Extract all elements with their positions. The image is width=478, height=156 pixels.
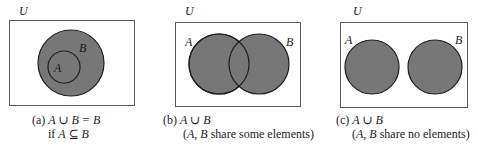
panel-c: U A B <box>341 4 468 108</box>
caption-c-line2: (A, B share no elements) <box>336 127 470 141</box>
caption-a-condition-prefix: if <box>48 127 58 141</box>
caption-b-expression: A ∪ B <box>180 113 211 127</box>
caption-b-sets: A, B <box>187 127 208 141</box>
panel-b: U A B <box>176 4 301 107</box>
caption-b: (b) A ∪ B (A, B share some elements) <box>163 113 314 141</box>
set-b-label-a: B <box>79 41 87 55</box>
caption-c-description: share no elements) <box>377 127 470 141</box>
caption-a-equation: A ∪ B = B <box>48 113 100 127</box>
universe-label-a: U <box>19 4 29 18</box>
caption-a-condition: A ⊆ B <box>58 127 89 141</box>
set-b-circle-c <box>408 40 462 94</box>
set-b-label-c: B <box>455 33 463 47</box>
set-a-label-a: A <box>53 61 62 75</box>
universe-label-b: U <box>185 4 195 18</box>
caption-c-sets: A, B <box>356 127 377 141</box>
caption-a-line2: if A ⊆ B <box>32 127 100 141</box>
caption-b-description: share some elements) <box>208 127 314 141</box>
panel-a: U B A <box>10 4 135 106</box>
set-a-label-c: A <box>344 33 353 47</box>
caption-b-line1: (b) A ∪ B <box>163 113 314 127</box>
caption-a-prefix: (a) <box>32 113 48 127</box>
caption-c: (c) A ∪ B (A, B share no elements) <box>336 113 470 141</box>
caption-b-prefix: (b) <box>163 113 180 127</box>
set-a-label-b: A <box>184 35 193 49</box>
set-a-circle-c <box>345 40 399 94</box>
caption-b-line2: (A, B share some elements) <box>163 127 314 141</box>
caption-a: (a) A ∪ B = B if A ⊆ B <box>32 113 100 141</box>
set-b-circle-b <box>229 34 289 94</box>
caption-c-line1: (c) A ∪ B <box>336 113 470 127</box>
set-b-label-b: B <box>286 35 294 49</box>
caption-c-expression: A ∪ B <box>352 113 383 127</box>
caption-c-prefix: (c) <box>336 113 352 127</box>
caption-a-line1: (a) A ∪ B = B <box>32 113 100 127</box>
universe-label-c: U <box>353 4 363 18</box>
